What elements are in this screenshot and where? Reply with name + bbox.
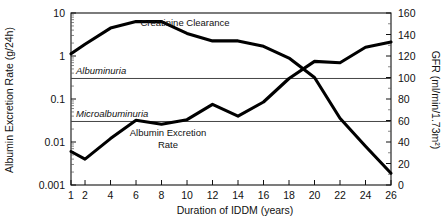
x-tick-label: 22 [334, 189, 346, 201]
x-axis-ticks: 12468101214161820222426 [68, 180, 397, 201]
y-tick-label: 1 [59, 50, 65, 62]
plot-frame [71, 13, 391, 185]
series-annotations: Creatinine ClearanceAlbumin ExcretionRat… [130, 17, 230, 150]
y2-tick-label: 60 [398, 115, 410, 127]
label-creatinine-clearance: Creatinine Clearance [140, 17, 229, 28]
x-tick-label: 8 [159, 189, 165, 201]
y2-axis-ticks: 160140120100806040200 [386, 7, 416, 191]
y2-axis-title: GFR (ml/min/1.73m²) [430, 51, 442, 150]
y-tick-label: 10 [53, 7, 65, 19]
x-axis-title: Duration of IDDM (years) [177, 204, 294, 216]
y-tick-label: 0.1 [50, 93, 65, 105]
x-tick-label: 1 [68, 189, 74, 201]
y2-tick-label: 140 [398, 29, 416, 41]
threshold-label-albuminuria: Albuminuria [75, 65, 126, 76]
x-tick-label: 18 [283, 189, 295, 201]
x-tick-label: 10 [181, 189, 193, 201]
y2-tick-label: 20 [398, 158, 410, 170]
label-albumin-excretion-rate: Albumin Excretion [130, 127, 207, 138]
y-axis-ticks: 1010.10.010.001 [39, 7, 76, 191]
chart-figure: Albumin Excretion Rate (g/24h) GFR (ml/m… [0, 0, 443, 221]
plot-area-border [71, 13, 391, 185]
x-tick-label: 20 [309, 189, 321, 201]
data-curves [71, 22, 391, 174]
label-albumin-excretion-rate-line2: Rate [158, 139, 178, 150]
x-tick-label: 2 [82, 189, 88, 201]
y-axis-title: Albumin Excretion Rate (g/24h) [3, 27, 15, 173]
curve-creatinine-clearance [71, 22, 391, 174]
x-tick-label: 4 [108, 189, 114, 201]
y2-tick-label: 100 [398, 72, 416, 84]
y2-tick-label: 160 [398, 7, 416, 19]
x-tick-label: 24 [360, 189, 372, 201]
y2-tick-label: 40 [398, 136, 410, 148]
x-tick-label: 12 [207, 189, 219, 201]
chart-canvas: Albumin Excretion Rate (g/24h) GFR (ml/m… [0, 0, 443, 221]
y-tick-label: 0.01 [45, 136, 66, 148]
curve-albumin-excretion-rate [71, 42, 391, 159]
x-tick-label: 14 [232, 189, 244, 201]
x-tick-label: 16 [258, 189, 270, 201]
x-tick-label: 26 [385, 189, 397, 201]
y-tick-label: 0.001 [39, 179, 65, 191]
x-tick-label: 6 [133, 189, 139, 201]
y2-tick-label: 120 [398, 50, 416, 62]
y2-tick-label: 0 [398, 179, 404, 191]
y2-tick-label: 80 [398, 93, 410, 105]
threshold-label-microalbuminuria: Microalbuminuria [76, 108, 148, 119]
